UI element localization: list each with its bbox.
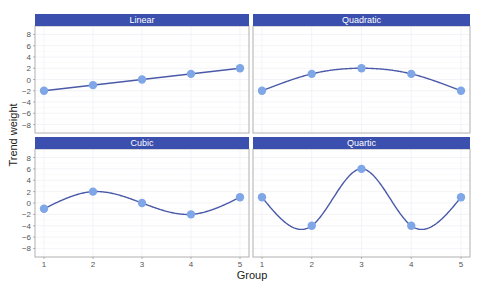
- x-tick-label: 5: [238, 260, 243, 269]
- facet-panel-quartic: Quartic12345: [253, 137, 470, 269]
- x-tick-label: 2: [91, 260, 96, 269]
- x-tick-label: 1: [42, 260, 47, 269]
- data-point: [457, 87, 465, 95]
- facet-strip-label: Quadratic: [342, 15, 382, 25]
- y-tick-label: −2: [22, 210, 32, 219]
- y-tick-label: −6: [22, 109, 32, 118]
- data-point: [308, 222, 316, 230]
- y-tick-label: 8: [27, 30, 32, 39]
- facet-panel-quadratic: Quadratic: [253, 14, 470, 133]
- y-tick-label: 0: [27, 199, 32, 208]
- y-tick-label: 2: [27, 188, 32, 197]
- y-tick-label: −2: [22, 87, 32, 96]
- y-tick-label: 4: [27, 176, 32, 185]
- data-point: [89, 81, 97, 89]
- data-point: [258, 193, 266, 201]
- x-tick-label: 3: [359, 260, 364, 269]
- x-tick-label: 3: [140, 260, 145, 269]
- chart-canvas: Linear86420−2−4−6−8QuadraticCubic86420−2…: [0, 0, 481, 293]
- data-point: [407, 70, 415, 78]
- y-tick-label: −6: [22, 233, 32, 242]
- facet-panel-linear: Linear86420−2−4−6−8: [22, 14, 249, 133]
- faceted-trend-chart: Linear86420−2−4−6−8QuadraticCubic86420−2…: [0, 0, 481, 293]
- y-tick-label: 8: [27, 154, 32, 163]
- data-point: [258, 87, 266, 95]
- data-point: [308, 70, 316, 78]
- y-tick-label: 2: [27, 64, 32, 73]
- data-point: [138, 199, 146, 207]
- x-tick-label: 4: [189, 260, 194, 269]
- y-tick-label: 6: [27, 42, 32, 51]
- data-point: [187, 70, 195, 78]
- y-tick-label: −8: [22, 244, 32, 253]
- data-point: [236, 64, 244, 72]
- y-axis-title: Trend weight: [7, 103, 19, 166]
- y-tick-label: −4: [22, 222, 32, 231]
- y-tick-label: −4: [22, 98, 32, 107]
- data-point: [407, 222, 415, 230]
- data-point: [187, 210, 195, 218]
- y-tick-label: −8: [22, 121, 32, 130]
- data-point: [138, 75, 146, 83]
- x-tick-label: 1: [260, 260, 265, 269]
- data-point: [40, 87, 48, 95]
- x-tick-label: 5: [459, 260, 464, 269]
- y-tick-label: 6: [27, 165, 32, 174]
- data-point: [357, 165, 365, 173]
- facet-strip-label: Quartic: [347, 138, 377, 148]
- x-axis-title: Group: [237, 269, 268, 281]
- data-point: [457, 193, 465, 201]
- data-point: [236, 193, 244, 201]
- x-tick-label: 4: [409, 260, 414, 269]
- facet-strip-label: Cubic: [130, 138, 154, 148]
- x-tick-label: 2: [310, 260, 315, 269]
- y-tick-label: 0: [27, 76, 32, 85]
- y-tick-label: 4: [27, 53, 32, 62]
- data-point: [40, 204, 48, 212]
- facet-panel-cubic: Cubic86420−2−4−6−812345: [22, 137, 249, 269]
- data-point: [357, 64, 365, 72]
- data-point: [89, 187, 97, 195]
- facet-strip-label: Linear: [129, 15, 154, 25]
